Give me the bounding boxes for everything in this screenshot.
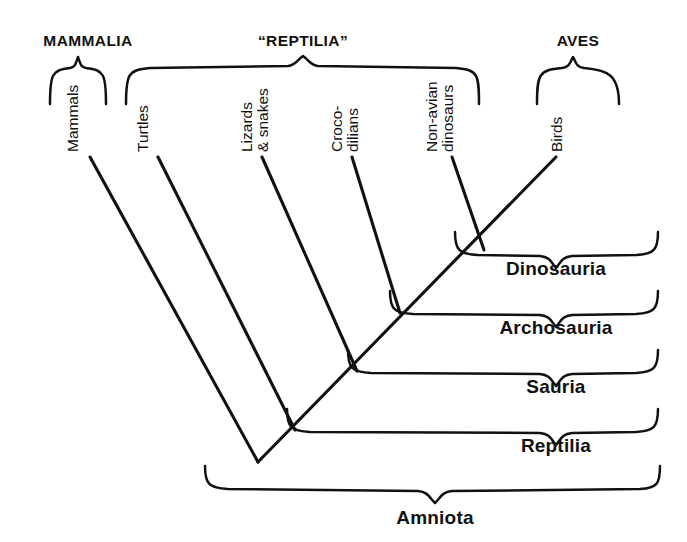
taxon-labels: Mammals Turtles Lizards & snakes Croco- … [64,81,565,152]
clade-label-amniota: Amniota [396,507,474,528]
taxon-label-lizards-snakes-line-0: Lizards [238,102,255,152]
branch-backbone [258,157,556,462]
brace-amniota [205,466,660,503]
taxon-label-crocodilians: Croco- dilians [328,105,361,152]
clade-label-sauria: Sauria [526,376,586,397]
taxon-label-mammals: Mammals [64,85,81,152]
brace-reptilia [287,409,658,445]
taxon-label-mammals-line-0: Mammals [64,85,81,152]
brace-sauria [348,350,658,386]
taxon-label-turtles-line-0: Turtles [134,105,151,152]
clade-labels: Dinosauria Archosauria Sauria Reptilia A… [396,258,612,528]
clade-label-dinosauria: Dinosauria [506,258,606,279]
cladogram-figure: MAMMALIA “REPTILIA” AVES Mammals Turtles… [0,0,687,542]
taxon-label-birds-line-0: Birds [548,116,565,152]
taxon-label-crocodilians-line-0: Croco- [328,105,345,152]
taxon-label-non-avian-dinosaurs-line-1: dinosaurs [439,85,456,152]
clade-label-reptilia: Reptilia [521,435,591,456]
tree-branches [90,157,556,462]
group-label-aves: AVES [557,32,600,49]
group-label-reptilia: “REPTILIA” [258,32,348,49]
taxon-label-non-avian-dinosaurs-line-0: Non-avian [423,81,440,152]
brace-aves [537,57,619,104]
branch-turtles [158,157,295,430]
branch-crocodilians [352,157,400,313]
clade-label-archosauria: Archosauria [499,317,612,338]
top-group-labels: MAMMALIA “REPTILIA” AVES [43,32,599,49]
taxon-label-crocodilians-line-1: dilians [344,108,361,152]
taxon-label-lizards-snakes: Lizards & snakes [238,88,271,152]
branch-non-avian-dinosaurs [452,157,484,250]
taxon-label-birds: Birds [548,116,565,152]
cladogram-canvas: MAMMALIA “REPTILIA” AVES Mammals Turtles… [0,0,687,542]
top-group-braces [50,56,619,104]
group-label-mammalia: MAMMALIA [43,32,132,49]
taxon-label-turtles: Turtles [134,105,151,152]
taxon-label-lizards-snakes-line-1: & snakes [254,88,271,152]
taxon-label-non-avian-dinosaurs: Non-avian dinosaurs [423,81,456,152]
branch-lizards-snakes [262,157,357,371]
